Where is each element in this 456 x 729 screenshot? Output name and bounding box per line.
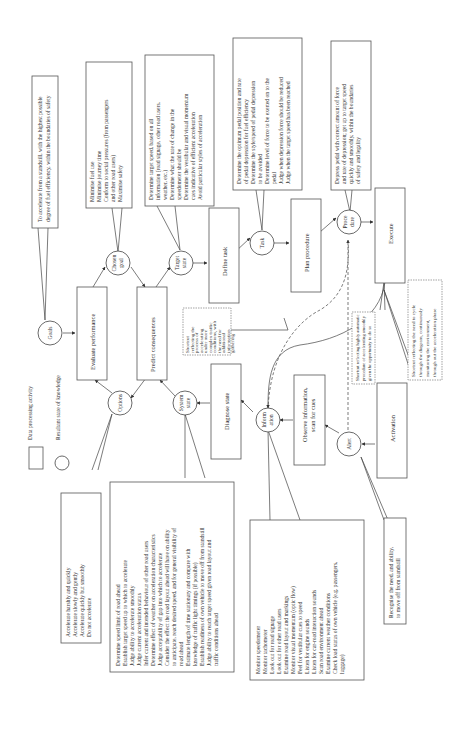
svg-text:Scan road environment ahead: Scan road environment ahead xyxy=(318,607,324,674)
callout-target-state: Determine target speed, based on all inf… xyxy=(145,55,214,206)
svg-text:Examine current weather condit: Examine current weather conditions xyxy=(325,593,331,674)
svg-text:Minimise fuel use: Minimise fuel use xyxy=(89,161,95,202)
legend-circle-label: Resultant state of knowledge xyxy=(55,375,61,440)
svg-text:Look out for other road users: Look out for other road users xyxy=(276,609,282,674)
svg-text:Determine the optimum pedal po: Determine the optimum pedal position and… xyxy=(236,78,242,184)
svg-text:Examine road layout and markin: Examine road layout and markings xyxy=(283,596,289,674)
callout-information: Monitor speedometer Monitor tachometer L… xyxy=(250,520,364,680)
svg-text:and other road users): and other road users) xyxy=(110,155,117,202)
callout-procedure: Depress pedal with correct amount of for… xyxy=(331,41,371,190)
activity-predict-consequences[interactable]: Predict consequences xyxy=(137,287,167,380)
svg-text:Execute: Execute xyxy=(387,223,394,244)
activity-define-task[interactable]: Define task xyxy=(209,208,239,303)
svg-text:Feel for vestibular cues to sp: Feel for vestibular cues to speed xyxy=(297,602,303,674)
activity-execute[interactable]: Execute xyxy=(375,188,405,283)
activity-activation[interactable]: Activation xyxy=(377,383,407,478)
svg-text:traffic conditions ahead: traffic conditions ahead xyxy=(213,613,219,666)
callout-shortcut-cycle: Shortcut reflecting the need to cycle th… xyxy=(408,280,442,380)
svg-text:To accelerate from a standstil: To accelerate from a standstill, with th… xyxy=(37,96,43,222)
svg-text:Judge when the target speed ha: Judge when the target speed has been rea… xyxy=(285,81,291,184)
svg-text:Chosen: Chosen xyxy=(111,254,117,271)
svg-text:Accelerate slowly and gently: Accelerate slowly and gently xyxy=(72,572,78,637)
svg-text:to move off from standstill: to move off from standstill xyxy=(395,558,401,618)
svg-text:Judge ability to accelerate sm: Judge ability to accelerate smoothly xyxy=(129,585,135,666)
activity-evaluate-performance[interactable]: Evaluate performance xyxy=(77,287,107,380)
activity-observe-information[interactable]: Observe information, scan for cues xyxy=(294,375,325,465)
svg-text:Task: Task xyxy=(259,238,265,249)
svg-text:Depress pedal with correct amo: Depress pedal with correct amount of for… xyxy=(334,87,340,184)
svg-text:pedal: pedal xyxy=(271,171,277,184)
state-goals[interactable]: Goals xyxy=(38,321,62,345)
state-task[interactable]: Task xyxy=(250,231,274,255)
svg-text:Look out for road signage: Look out for road signage xyxy=(269,615,275,674)
decision-ladder-diagram: Data processing activity Resultant state… xyxy=(0,0,456,729)
svg-text:Determine target speed, based: Determine target speed, based on all xyxy=(148,118,154,200)
svg-text:of pedal depression for fuel e: of pedal depression for fuel efficiency xyxy=(243,99,249,184)
svg-text:weather, etc.): weather, etc.) xyxy=(162,170,169,200)
state-options[interactable]: Options xyxy=(108,391,132,415)
svg-text:Establish readiness of own veh: Establish readiness of own vehicle to mo… xyxy=(199,527,205,666)
state-procedure[interactable]: Proce dure xyxy=(337,210,361,234)
svg-text:Maximise safety: Maximise safety xyxy=(117,165,123,202)
svg-text:Estimate length of time statio: Estimate length of time stationary and c… xyxy=(185,549,191,666)
svg-text:Determine level of force to be: Determine level of force to be exerted o… xyxy=(264,77,270,184)
svg-text:to anticipate, reach desired s: to anticipate, reach desired speed, and … xyxy=(171,528,177,666)
legend: Data processing activity Resultant state… xyxy=(27,375,69,470)
svg-text:given the opportunity to do so: given the opportunity to do so xyxy=(367,325,372,381)
svg-text:cues indicative of efficient a: cues indicative of efficient acceleratio… xyxy=(190,112,196,200)
legend-circle-icon xyxy=(55,456,69,470)
svg-text:Conform to social pressures (f: Conform to social pressures (from passen… xyxy=(103,100,110,202)
svg-text:Determine the style/speed of p: Determine the style/speed of pedal depre… xyxy=(250,81,256,184)
svg-text:state: state xyxy=(181,257,187,268)
state-system-state[interactable]: System state xyxy=(173,391,197,415)
state-information[interactable]: Inform ation xyxy=(256,408,280,432)
svg-text:Accelerate harshly and quickly: Accelerate harshly and quickly xyxy=(65,567,71,637)
state-target-state[interactable]: Target state xyxy=(169,251,193,275)
legend-box-label: Data processing activity xyxy=(27,386,33,440)
svg-text:goal: goal xyxy=(118,258,124,268)
svg-text:Check load status of own vehic: Check load status of own vehicle (e.g. p… xyxy=(332,561,339,674)
svg-text:Minimise journey time: Minimise journey time xyxy=(96,150,102,202)
callout-shortcut-automatic: Shortcut reflecting highly automatic pro… xyxy=(352,312,375,384)
svg-text:Monitor speedometer: Monitor speedometer xyxy=(255,626,261,674)
svg-text:Consider the effect the road l: Consider the effect the road layout ahea… xyxy=(164,529,170,666)
svg-text:Judge acceptability of gap int: Judge acceptability of gap into which to… xyxy=(157,552,163,666)
svg-text:Proce: Proce xyxy=(342,215,348,228)
activity-diagnose-state[interactable]: Diagnose state xyxy=(211,364,241,459)
svg-text:information (road signage, oth: information (road signage, other road us… xyxy=(155,101,162,200)
svg-text:Diagnose state: Diagnose state xyxy=(223,392,230,430)
svg-text:Judge ability to reach target: Judge ability to reach target speed give… xyxy=(206,540,212,666)
svg-text:Listen for engine sounds: Listen for engine sounds xyxy=(304,619,310,674)
svg-text:Options: Options xyxy=(117,394,123,412)
svg-text:to be avoided: to be avoided xyxy=(257,154,263,184)
svg-text:Plan procedure: Plan procedure xyxy=(303,233,310,272)
svg-text:Accelerate quickly but smoothl: Accelerate quickly but smoothly xyxy=(79,564,85,637)
svg-text:Do not accelerate: Do not accelerate xyxy=(86,597,92,637)
svg-text:quickly and smoothly, within t: quickly and smoothly, within the boundar… xyxy=(348,85,354,184)
callout-system-state: Determine speed limit of road ahead Esta… xyxy=(110,482,234,672)
svg-text:Predict consequences: Predict consequences xyxy=(149,317,156,372)
svg-text:ation: ation xyxy=(268,414,274,425)
svg-text:Monitor visual momentum (optic: Monitor visual momentum (optic flow) xyxy=(290,586,297,674)
svg-text:Alert: Alert xyxy=(346,438,352,450)
svg-text:scan for cues: scan for cues xyxy=(309,398,316,432)
svg-text:luggage): luggage) xyxy=(339,654,346,674)
callout-options: Accelerate harshly and quickly Accelerat… xyxy=(61,493,101,643)
callout-chosen-goal: Minimise fuel use Minimise journey time … xyxy=(86,62,132,208)
svg-text:Avoid particular styles of acc: Avoid particular styles of acceleration xyxy=(197,115,203,200)
svg-text:Observe information,: Observe information, xyxy=(301,387,308,442)
svg-text:Determine what the rate of cha: Determine what the rate of change in the xyxy=(169,108,175,200)
state-alert[interactable]: Alert xyxy=(337,432,361,456)
svg-text:road ahead: road ahead xyxy=(178,641,184,666)
callout-task: Determine the optimum pedal position and… xyxy=(233,38,302,190)
svg-text:Goals: Goals xyxy=(47,326,53,339)
state-chosen-goal[interactable]: Chosen goal xyxy=(106,251,130,275)
svg-text:dure: dure xyxy=(349,217,355,227)
svg-text:gathering: gathering xyxy=(230,334,235,353)
svg-text:Listen for car-road interactio: Listen for car-road interaction sounds xyxy=(311,590,317,674)
svg-text:Inform: Inform xyxy=(261,412,267,428)
svg-text:System: System xyxy=(178,394,184,411)
svg-text:of safety and legality: of safety and legality xyxy=(355,137,361,184)
activity-plan-procedure[interactable]: Plan procedure xyxy=(291,199,321,292)
svg-text:Establish target speed up to w: Establish target speed up to which to ac… xyxy=(122,559,128,666)
